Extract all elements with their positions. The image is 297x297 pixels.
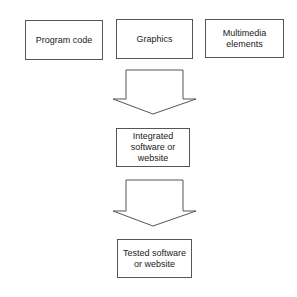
box-label: Tested software or website xyxy=(121,248,188,270)
box-label: Program code xyxy=(36,35,93,46)
graphics-box: Graphics xyxy=(116,19,193,59)
box-label: Graphics xyxy=(136,34,172,45)
program-code-box: Program code xyxy=(25,20,103,60)
tested-software-box: Tested software or website xyxy=(117,239,192,278)
multimedia-elements-box: Multimedia elements xyxy=(205,19,284,58)
box-label: Integrated software or website xyxy=(120,131,186,164)
integrated-software-box: Integrated software or website xyxy=(116,128,190,167)
block-down-arrow-icon xyxy=(113,180,196,226)
box-label: Multimedia elements xyxy=(209,28,280,50)
flow-diagram: Program code Graphics Multimedia element… xyxy=(0,0,297,297)
block-down-arrow-icon xyxy=(113,70,196,114)
